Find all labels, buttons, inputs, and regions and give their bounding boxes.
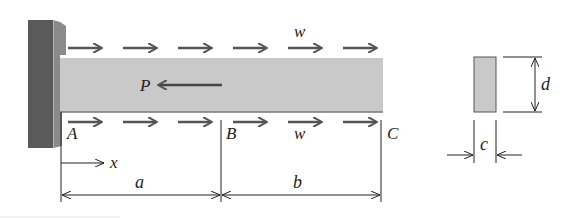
label-d: d [541, 74, 551, 94]
label-c: c [480, 134, 488, 154]
label-a-point: A [66, 124, 78, 143]
label-b-point: B [226, 124, 237, 143]
label-w-top: w [294, 22, 306, 41]
label-p: P [139, 76, 150, 95]
label-a-length: a [135, 172, 144, 192]
label-c-point: C [387, 124, 399, 143]
beam-diagram: P w A B w C x a b d c [0, 0, 563, 218]
x-axis: x [61, 153, 118, 172]
dimension-a: a [62, 172, 220, 195]
label-x: x [109, 153, 118, 172]
label-b-length: b [293, 172, 302, 192]
label-w-bottom: w [294, 124, 306, 143]
cross-section: d c [447, 57, 551, 163]
dimension-b: b [222, 172, 380, 195]
reference-lines [61, 112, 381, 202]
